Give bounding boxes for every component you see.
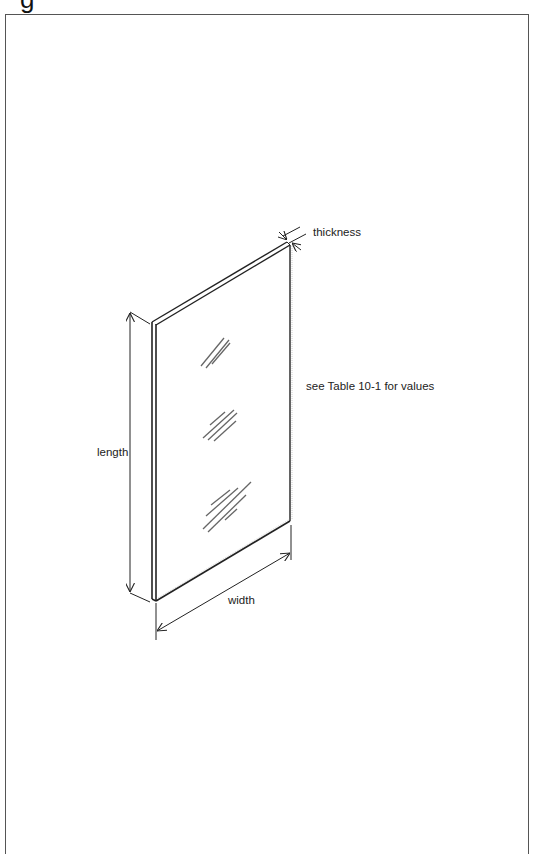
thickness-label: thickness	[313, 226, 361, 238]
width-label: width	[228, 594, 255, 606]
length-label: length	[97, 446, 128, 458]
table-reference-note: see Table 10-1 for values	[306, 380, 434, 392]
thickness-dimension	[279, 227, 306, 250]
length-dimension	[130, 312, 150, 602]
